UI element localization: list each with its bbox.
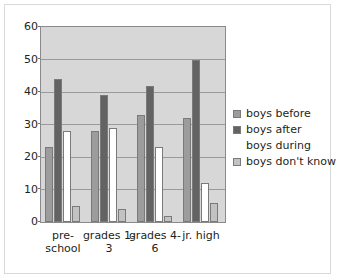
bar[interactable] bbox=[155, 147, 163, 222]
bar[interactable] bbox=[137, 115, 145, 222]
bar[interactable] bbox=[146, 86, 154, 223]
y-axis-tick-label: 60 bbox=[8, 21, 38, 32]
bar[interactable] bbox=[118, 209, 126, 222]
y-axis-tick-label: 40 bbox=[8, 86, 38, 97]
legend-swatch-icon bbox=[233, 110, 241, 118]
legend-swatch-icon bbox=[233, 126, 241, 134]
legend-item[interactable]: boys during bbox=[233, 139, 333, 153]
bar-group bbox=[183, 27, 218, 222]
bar-group bbox=[91, 27, 126, 222]
legend-label: boys don't know bbox=[246, 155, 336, 168]
y-axis-tick-label: 10 bbox=[8, 183, 38, 194]
bar[interactable] bbox=[91, 131, 99, 222]
plot-area bbox=[40, 26, 226, 223]
legend-item[interactable]: boys after bbox=[233, 123, 333, 137]
chart-frame: 0102030405060 pre- schoolgrades 1- 3grad… bbox=[4, 4, 331, 274]
y-axis-tick-label: 0 bbox=[8, 216, 38, 227]
legend-item[interactable]: boys don't know bbox=[233, 155, 333, 169]
y-axis-tick-label: 30 bbox=[8, 118, 38, 129]
bar[interactable] bbox=[109, 128, 117, 222]
bar-group bbox=[137, 27, 172, 222]
bar[interactable] bbox=[63, 131, 71, 222]
y-axis-tick-label: 20 bbox=[8, 151, 38, 162]
legend-swatch-icon bbox=[233, 142, 241, 150]
x-axis-label: jr. high bbox=[172, 229, 229, 242]
legend-label: boys during bbox=[246, 139, 311, 152]
bar[interactable] bbox=[54, 79, 62, 222]
legend-label: boys before bbox=[246, 107, 311, 120]
bar[interactable] bbox=[45, 147, 53, 222]
bar[interactable] bbox=[183, 118, 191, 222]
bar[interactable] bbox=[164, 216, 172, 223]
legend-label: boys after bbox=[246, 123, 301, 136]
bar[interactable] bbox=[201, 183, 209, 222]
bar[interactable] bbox=[100, 95, 108, 222]
y-axis: 0102030405060 bbox=[5, 26, 38, 223]
legend-item[interactable]: boys before bbox=[233, 107, 333, 121]
bar-group bbox=[45, 27, 80, 222]
bar[interactable] bbox=[72, 206, 80, 222]
legend-swatch-icon bbox=[233, 158, 241, 166]
bar[interactable] bbox=[210, 203, 218, 223]
bar[interactable] bbox=[192, 60, 200, 223]
x-axis-labels: pre- schoolgrades 1- 3grades 4- 6jr. hig… bbox=[40, 229, 226, 269]
chart-legend: boys beforeboys afterboys duringboys don… bbox=[233, 107, 333, 171]
y-axis-tick-label: 50 bbox=[8, 53, 38, 64]
